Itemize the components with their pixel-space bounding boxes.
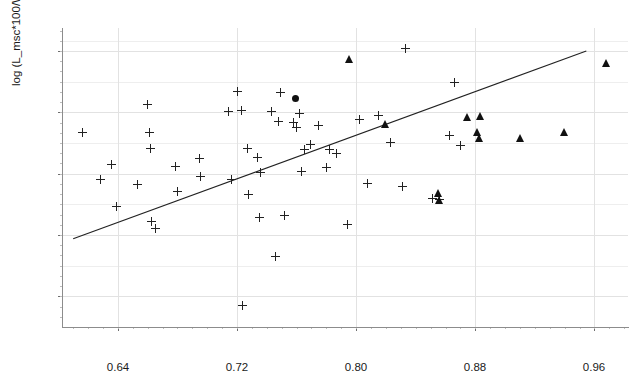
fit-line	[73, 51, 586, 239]
x-tick-label: 0.88	[445, 362, 505, 374]
x-tick-label: 0.64	[88, 362, 148, 374]
regression-line	[62, 28, 628, 327]
y-axis-title: log (L_msc*100/W_msc)	[10, 0, 22, 86]
chart-canvas: 1.801.922.042.162.28 0.640.720.800.880.9…	[0, 0, 642, 375]
plot-area: 1.801.922.042.162.28 0.640.720.800.880.9…	[62, 28, 628, 327]
x-tick-label: 0.96	[564, 362, 624, 374]
x-tick-label: 0.72	[207, 362, 267, 374]
x-tick-label: 0.80	[326, 362, 386, 374]
x-axis-line	[62, 327, 629, 328]
y-axis-line	[62, 28, 63, 328]
